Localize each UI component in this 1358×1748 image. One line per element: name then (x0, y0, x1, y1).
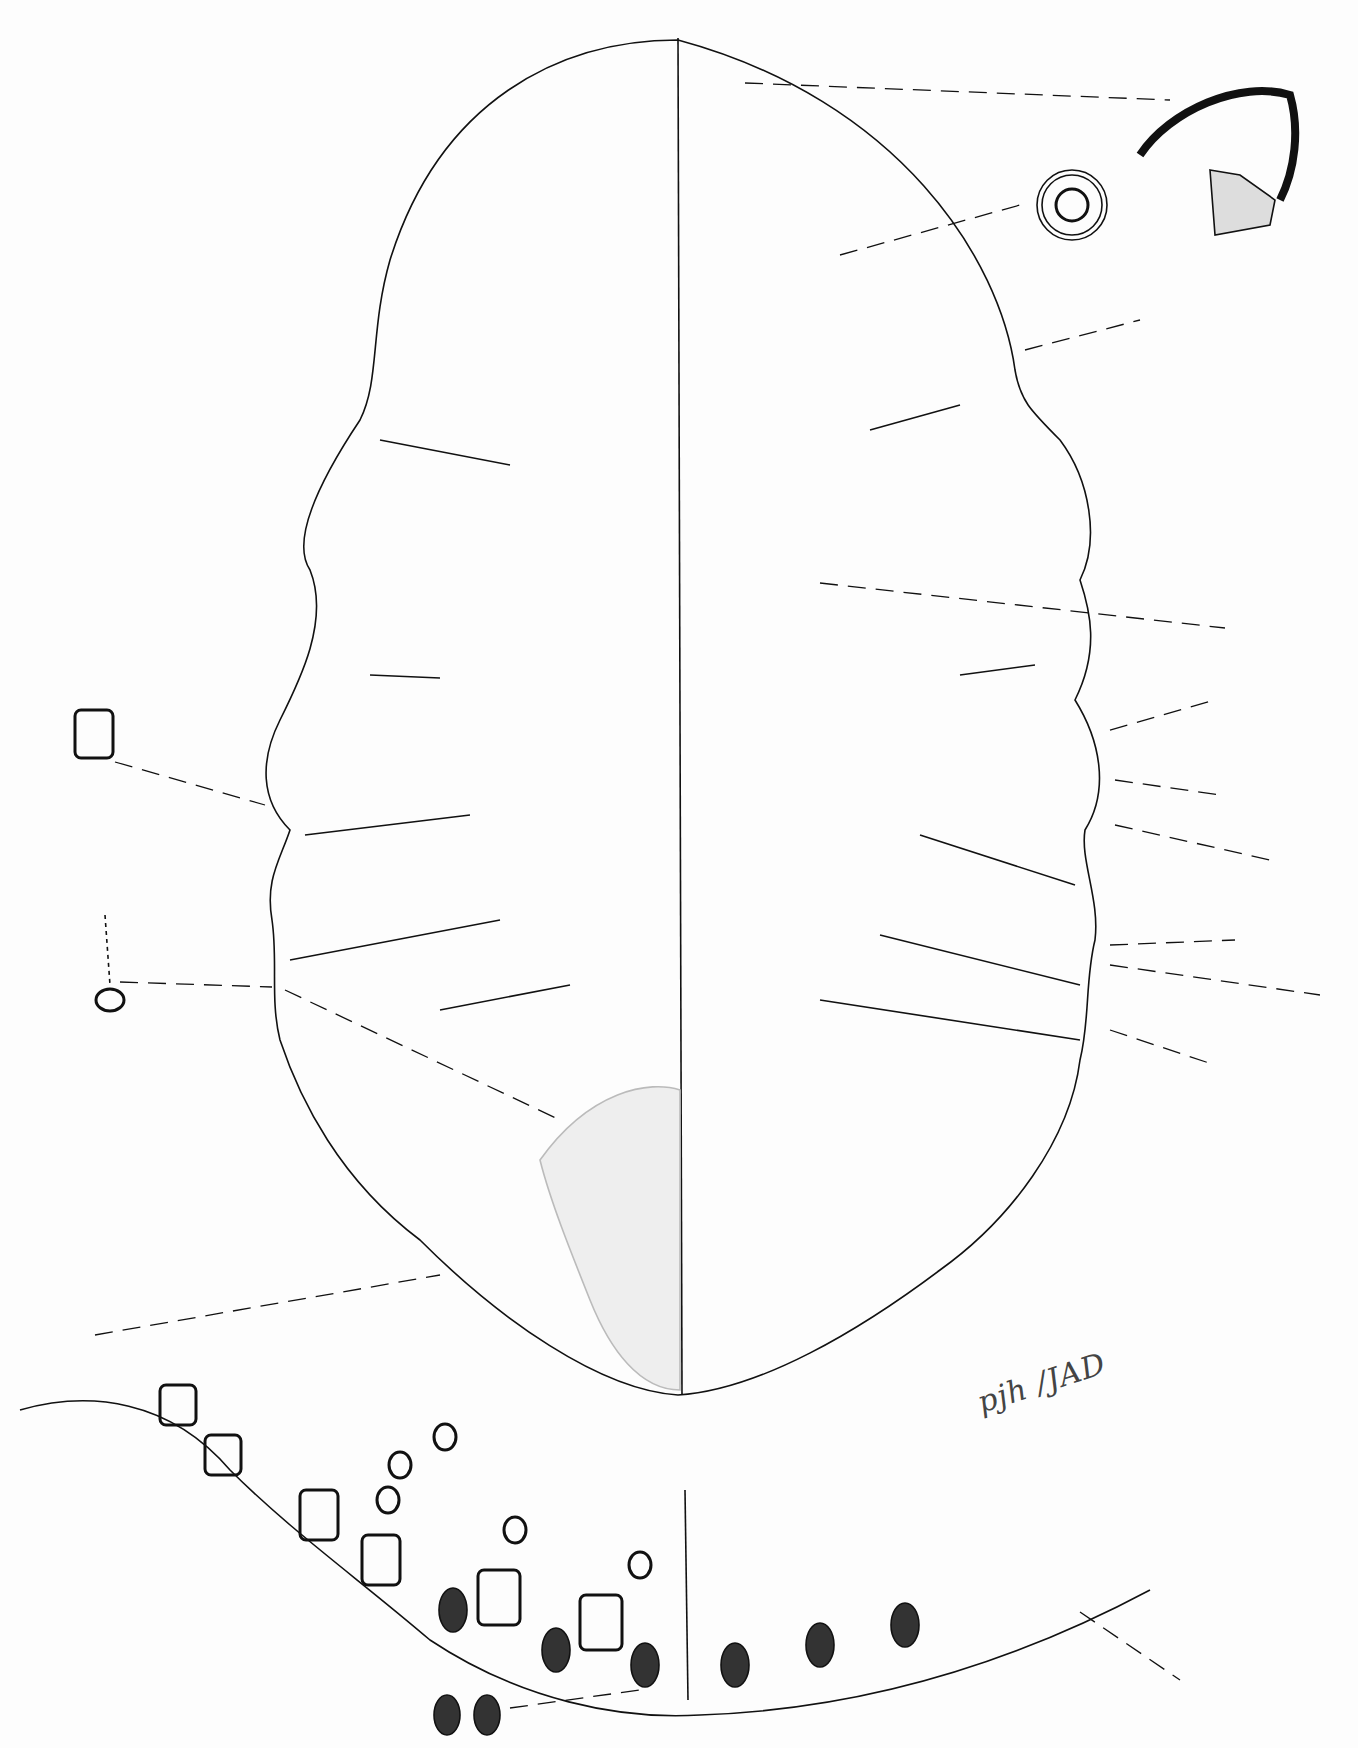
body-outline (266, 40, 1099, 1395)
margin-detail (20, 1401, 1150, 1716)
insect-drawing (0, 0, 1358, 1748)
illustration-canvas: pjh /JAD (0, 0, 1358, 1748)
